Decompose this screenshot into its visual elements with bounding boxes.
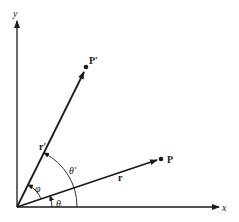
point-p-prime-dot	[84, 65, 89, 70]
theta-prime-label: θ′	[69, 165, 77, 176]
point-p-prime-label: P′	[89, 55, 98, 66]
point-p-dot	[159, 157, 164, 162]
y-axis-label: y	[12, 8, 18, 19]
vector-r-prime	[17, 65, 88, 207]
theta-arc	[50, 196, 52, 207]
theta-label: θ	[56, 198, 61, 209]
vector-r-label: r	[118, 172, 123, 183]
rotation-diagram: y x P′ r′ P r θ′ θ φ	[0, 0, 239, 222]
point-p-label: P	[167, 154, 173, 165]
x-axis-label: x	[221, 202, 227, 213]
vector-r-prime-label: r′	[39, 141, 46, 152]
phi-label: φ	[35, 183, 41, 194]
